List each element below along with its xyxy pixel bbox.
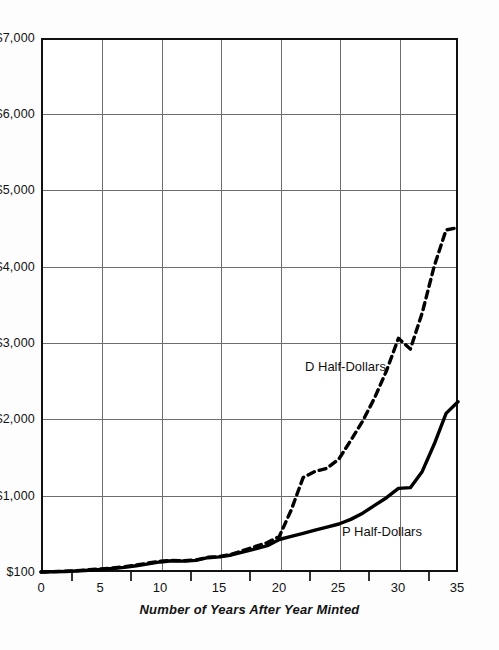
- chart-container: $7,000 $6,000 $5,000 $4,000 $3,000 $2,00…: [0, 0, 499, 650]
- series-line-p-half-dollars: [41, 402, 458, 572]
- x-tick-label: 25: [318, 580, 358, 595]
- series-annotation-p-half-dollars: P Half-Dollars: [342, 524, 422, 539]
- x-tick-label: 5: [80, 580, 120, 595]
- x-tick-label: 15: [199, 580, 239, 595]
- series-line-d-half-dollars: [41, 228, 458, 572]
- series-layer: [0, 0, 499, 650]
- series-annotation-d-half-dollars: D Half-Dollars: [305, 359, 386, 374]
- x-axis-title: Number of Years After Year Minted: [0, 602, 499, 617]
- x-tick-label: 0: [21, 580, 61, 595]
- x-tick-label: 30: [378, 580, 418, 595]
- x-tick-label: 35: [437, 580, 477, 595]
- x-tick-label: 20: [259, 580, 299, 595]
- x-tick-label: 10: [140, 580, 180, 595]
